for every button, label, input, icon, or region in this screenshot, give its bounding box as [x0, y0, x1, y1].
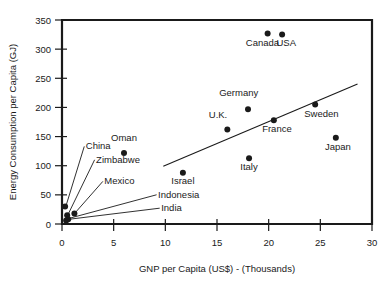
x-tick-label: 0 — [59, 237, 64, 248]
data-label-china: China — [86, 140, 112, 151]
data-label-indonesia: Indonesia — [158, 189, 200, 200]
data-point-india[interactable] — [63, 218, 69, 224]
y-tick-label: 100 — [35, 160, 51, 171]
x-tick-label: 15 — [212, 237, 223, 248]
scatter-chart: 050100150200250300350051015202530GNP per… — [0, 0, 388, 292]
data-label-uk: U.K. — [209, 109, 227, 120]
x-tick-label: 25 — [315, 237, 326, 248]
plot-frame — [62, 20, 372, 224]
data-point-oman[interactable] — [121, 150, 127, 156]
data-label-zimbabwe: Zimbabwe — [96, 154, 140, 165]
data-label-india: India — [161, 202, 182, 213]
data-point-sweden[interactable] — [312, 102, 318, 108]
data-label-france: France — [262, 123, 292, 134]
plot-area: 050100150200250300350051015202530GNP per… — [0, 0, 388, 292]
data-label-sweden: Sweden — [304, 108, 338, 119]
x-tick-label: 30 — [367, 237, 378, 248]
x-axis-title: GNP per Capita (US$) - (Thousands) — [139, 263, 295, 274]
data-label-oman: Oman — [111, 132, 137, 143]
y-axis-title: Energy Consumption per Capita (GJ) — [7, 44, 18, 200]
trend-line — [163, 84, 357, 166]
data-label-japan: Japan — [325, 141, 351, 152]
y-tick-label: 0 — [46, 219, 51, 230]
y-tick-label: 350 — [35, 15, 51, 26]
data-label-italy: Italy — [240, 161, 258, 172]
x-tick-label: 10 — [160, 237, 171, 248]
y-tick-label: 150 — [35, 131, 51, 142]
data-label-mexico: Mexico — [104, 175, 134, 186]
leader-line-indonesia — [69, 195, 156, 219]
data-point-uk[interactable] — [224, 127, 230, 133]
data-point-france[interactable] — [271, 117, 277, 123]
data-label-israel: Israel — [171, 175, 194, 186]
data-label-usa: USA — [276, 37, 296, 48]
data-label-canada: Canada — [246, 37, 280, 48]
data-point-germany[interactable] — [245, 106, 251, 112]
leader-line-china — [66, 146, 84, 205]
y-tick-label: 200 — [35, 102, 51, 113]
y-tick-label: 300 — [35, 44, 51, 55]
data-point-mexico[interactable] — [71, 211, 77, 217]
data-point-japan[interactable] — [333, 135, 339, 141]
data-point-china[interactable] — [62, 204, 68, 210]
leader-line-india — [67, 208, 160, 219]
y-tick-label: 250 — [35, 73, 51, 84]
x-tick-label: 5 — [111, 237, 116, 248]
data-label-germany: Germany — [219, 87, 258, 98]
y-tick-label: 50 — [40, 189, 51, 200]
leader-line-mexico — [75, 181, 102, 212]
x-tick-label: 20 — [263, 237, 274, 248]
data-point-canada[interactable] — [265, 30, 271, 36]
